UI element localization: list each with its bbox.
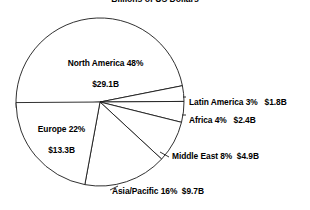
slice-label-asia-pacific: Asia/Pacific 16% $9.7B [112, 186, 262, 197]
slice-label-latin-america: Latin America 3% $1.8B [189, 97, 307, 108]
slice-label-africa: Africa 4% $2.4B [189, 115, 307, 126]
pie-chart-figure: Billions of US Dollars North America 48%… [0, 0, 310, 210]
slice-label-north-america-line1: North America 48% [68, 58, 144, 68]
slice-label-europe-line1: Europe 22% [38, 124, 85, 134]
slice-label-north-america: North America 48% $29.1B [36, 47, 166, 100]
slice-label-middle-east: Middle East 8% $4.9B [172, 151, 304, 162]
slice-label-europe-line2: $13.3B [48, 145, 75, 155]
slice-label-north-america-line2: $29.1B [92, 79, 119, 89]
slice-label-europe: Europe 22% $13.3B [9, 113, 105, 166]
